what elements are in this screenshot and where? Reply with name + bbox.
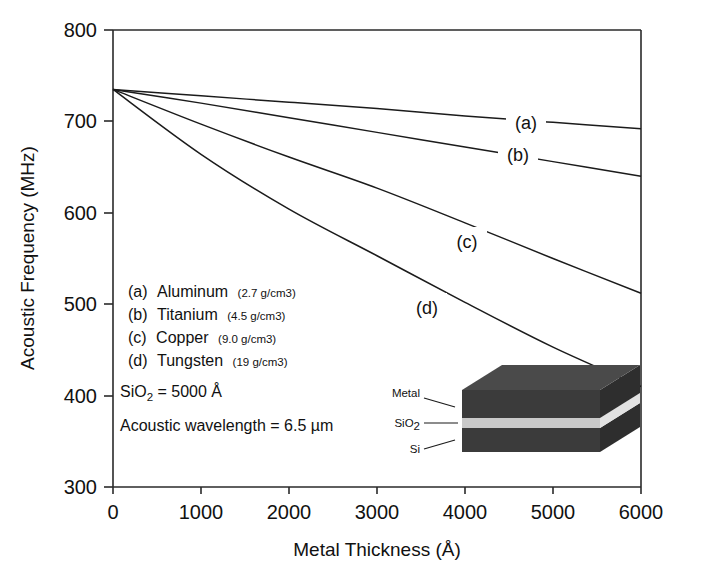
curve-label-c: (c) bbox=[457, 232, 478, 252]
y-tick-label: 300 bbox=[64, 476, 97, 498]
y-tick-label: 700 bbox=[64, 110, 97, 132]
legend-density-a: (2.7 g/cm3) bbox=[238, 287, 296, 299]
legend-density-d: (19 g/cm3) bbox=[233, 356, 288, 368]
x-tick-label: 3000 bbox=[355, 501, 400, 523]
annotation-acoustic-wavelength: Acoustic wavelength = 6.5 µm bbox=[120, 417, 333, 434]
legend-material-c: Copper bbox=[156, 329, 209, 346]
x-tick-label: 1000 bbox=[179, 501, 224, 523]
inset-silicon-front-face bbox=[462, 428, 600, 452]
annotation-oxide-thickness: SiO2 = 5000 Å bbox=[120, 382, 222, 403]
legend-density-c: (9.0 g/cm3) bbox=[218, 333, 276, 345]
inset-label-metal: Metal bbox=[392, 387, 420, 399]
chart-background bbox=[0, 0, 705, 574]
y-tick-label: 500 bbox=[64, 293, 97, 315]
legend-density-b: (4.5 g/cm3) bbox=[227, 310, 285, 322]
legend-marker-a: (a) bbox=[128, 283, 148, 300]
legend-marker-b: (b) bbox=[128, 306, 148, 323]
legend-material-d: Tungsten bbox=[157, 352, 223, 369]
x-tick-label: 2000 bbox=[267, 501, 312, 523]
legend-material-a: Aluminum bbox=[157, 283, 228, 300]
y-axis-title: Acoustic Frequency (MHz) bbox=[17, 146, 38, 370]
y-tick-label: 800 bbox=[64, 19, 97, 41]
legend-material-b: Titanium bbox=[157, 306, 218, 323]
acoustic-frequency-chart: 800 700 600 500 400 300 0 1000 2000 3000… bbox=[0, 0, 705, 574]
x-tick-label: 5000 bbox=[531, 501, 576, 523]
x-tick-label: 0 bbox=[107, 501, 118, 523]
inset-metal-front-face bbox=[462, 390, 600, 418]
curve-label-d: (d) bbox=[416, 298, 438, 318]
curve-label-a: (a) bbox=[515, 113, 537, 133]
oxide-suffix: = 5000 Å bbox=[153, 382, 222, 400]
x-tick-label: 4000 bbox=[443, 501, 488, 523]
inset-label-silicon: Si bbox=[410, 443, 420, 455]
x-tick-label: 6000 bbox=[619, 501, 664, 523]
inset-oxide-subscript: 2 bbox=[414, 420, 420, 432]
legend-marker-c: (c) bbox=[128, 329, 147, 346]
inset-oxide-prefix: SiO bbox=[394, 417, 413, 429]
inset-oxide-front-face bbox=[462, 418, 600, 428]
figure-container: 800 700 600 500 400 300 0 1000 2000 3000… bbox=[0, 0, 705, 574]
y-tick-label: 400 bbox=[64, 385, 97, 407]
y-tick-label: 600 bbox=[64, 202, 97, 224]
curve-label-b: (b) bbox=[507, 145, 529, 165]
x-axis-title: Metal Thickness (Å) bbox=[293, 539, 461, 560]
oxide-prefix: SiO bbox=[120, 383, 147, 400]
legend-marker-d: (d) bbox=[128, 352, 148, 369]
